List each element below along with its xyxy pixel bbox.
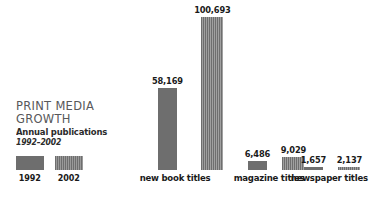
bar-1992[interactable] [304,167,323,170]
bar-column[interactable]: 58,169 [151,76,184,171]
category-label: new book titles [134,172,216,183]
chart-canvas: PRINT MEDIA GROWTH Annual publications 1… [0,0,370,204]
bar-group: 6,4869,029 [244,145,307,171]
category-label: newspaper titles [291,172,365,183]
bar-value-label: 1,657 [301,155,326,165]
bar-value-label: 58,169 [152,76,183,86]
bar-value-label: 9,029 [281,145,306,155]
bar-column[interactable]: 2,137 [336,155,363,171]
bar-value-label: 2,137 [337,155,362,165]
bar-2002[interactable] [338,167,360,170]
bar-column[interactable]: 100,693 [193,5,232,171]
bar-value-label: 6,486 [245,149,270,159]
bar-value-label: 100,693 [194,5,230,15]
bar-2002[interactable] [201,17,223,170]
bar-column[interactable]: 6,486 [244,149,271,171]
bar-group: 58,169100,693 [151,5,231,171]
bar-1992[interactable] [248,161,267,170]
bar-group: 1,6572,137 [300,155,363,171]
bar-column[interactable]: 1,657 [300,155,327,171]
bar-1992[interactable] [158,88,177,170]
bar-plot-area: 58,169100,693new book titles6,4869,029ma… [0,0,370,204]
